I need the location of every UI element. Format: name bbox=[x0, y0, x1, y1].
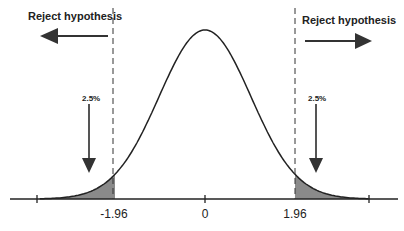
tick-label-neg: -1.96 bbox=[100, 207, 127, 221]
right-reject-label: Reject hypothesis bbox=[302, 14, 396, 26]
right-down-arrow-icon bbox=[309, 104, 323, 173]
left-arrow-icon bbox=[40, 28, 108, 44]
left-reject-label: Reject hypothesis bbox=[28, 10, 122, 22]
tick-label-zero: 0 bbox=[202, 207, 209, 221]
left-down-arrow-icon bbox=[82, 104, 96, 173]
left-tail-pct: 2.5% bbox=[82, 94, 100, 103]
normal-distribution-chart bbox=[0, 0, 404, 231]
tick-label-pos: 1.96 bbox=[283, 207, 306, 221]
right-arrow-icon bbox=[305, 33, 372, 49]
right-tail-pct: 2.5% bbox=[308, 94, 326, 103]
